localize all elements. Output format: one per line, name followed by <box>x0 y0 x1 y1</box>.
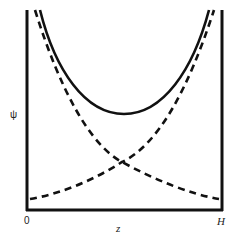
y-axis-label: ψ <box>10 110 17 120</box>
dashed-decaying-curve <box>35 10 219 199</box>
x-end-label: H <box>217 216 225 226</box>
dashed-growing-curve <box>30 10 214 199</box>
solid-sum-curve <box>40 10 209 114</box>
x-axis-label: z <box>116 223 120 233</box>
x-origin-label: 0 <box>24 216 30 226</box>
chart-canvas <box>0 0 238 237</box>
